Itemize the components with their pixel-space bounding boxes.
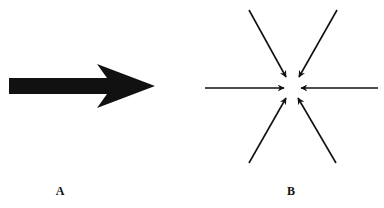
diagram-canvas: A B — [0, 0, 384, 208]
arrow-lower-left-icon — [249, 98, 286, 163]
arrow-lower-right-icon — [298, 98, 336, 163]
panel-a-label: A — [56, 184, 65, 199]
arrow-upper-left-icon — [249, 10, 286, 77]
panel-b-converging-arrows-icon — [205, 10, 378, 163]
arrow-upper-right-icon — [299, 10, 337, 77]
panel-b-label: B — [287, 184, 295, 199]
panel-a-thick-arrow-icon — [9, 64, 155, 108]
diagram-svg — [0, 0, 384, 208]
